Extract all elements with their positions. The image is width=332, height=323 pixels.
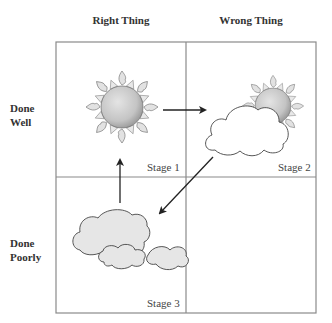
stage-3-label: Stage 3 xyxy=(147,297,180,309)
sun-icon xyxy=(86,71,158,143)
grid xyxy=(56,42,316,313)
cloud-shape xyxy=(206,106,289,156)
sun-behind-cloud-icon xyxy=(206,75,304,155)
stage-1-label: Stage 1 xyxy=(147,161,180,173)
clouds-icon xyxy=(73,210,189,270)
stage-2-label: Stage 2 xyxy=(278,161,311,173)
